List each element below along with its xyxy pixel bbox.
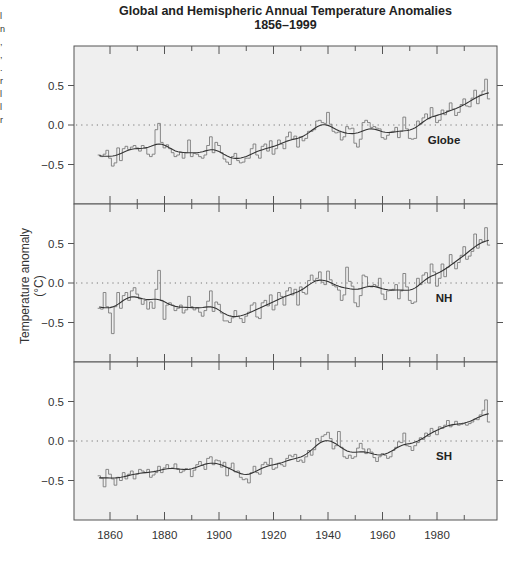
y-tick-label: −0.5 [41,475,64,487]
panel-globe: 0.50.0−0.5Globe [41,46,503,204]
x-tick-label: 1900 [206,529,232,541]
x-tick-label: 1920 [261,529,287,541]
y-tick-label: 0.0 [48,435,64,447]
x-tick-label: 1880 [152,529,178,541]
y-tick-label: 0.0 [48,277,64,289]
x-tick-label: 1940 [315,529,341,541]
y-tick-label: 0.0 [48,119,64,131]
x-tick-label: 1980 [424,529,450,541]
panel-label: SH [436,450,452,462]
y-tick-label: −0.5 [41,159,64,171]
x-tick-label: 1960 [370,529,396,541]
y-tick-label: 0.5 [48,80,64,92]
chart-canvas: 0.50.0−0.5Globe0.50.0−0.5NH0.50.0−0.5SH1… [0,0,526,572]
x-tick-label: 1860 [97,529,123,541]
panel-label: Globe [428,134,461,146]
y-tick-label: 0.5 [48,396,64,408]
y-axis-label: Temperature anomaly (°C) [18,216,46,356]
panel-sh: 0.50.0−0.5SH [41,362,503,520]
panel-nh: 0.50.0−0.5NH [41,204,503,362]
panel-label: NH [436,292,453,304]
y-tick-label: 0.5 [48,238,64,250]
